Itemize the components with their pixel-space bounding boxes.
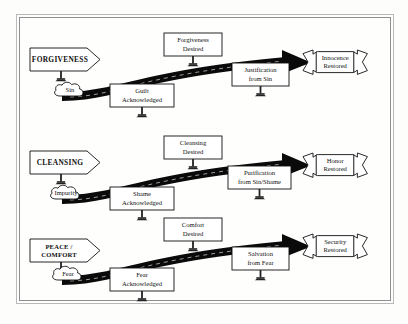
sign-line-2: Acknowledged	[122, 199, 163, 206]
sign-fear-acknowledged[interactable]: Fear Acknowledged	[110, 268, 174, 301]
sign-line-1: Guilt	[135, 87, 149, 94]
sign-line-1: Justification	[244, 66, 277, 73]
sign-cleansing-desired[interactable]: Cleansing Desired	[164, 136, 222, 169]
sign-line-2: Desired	[183, 230, 204, 237]
banner-line-2: Restored	[323, 62, 347, 69]
sign-shame-acknowledged[interactable]: Shame Acknowledged	[110, 187, 174, 220]
cloud-sin: Sin	[55, 82, 83, 96]
sign-line-1: Cleansing	[180, 139, 207, 146]
cloud-label: Sin	[66, 86, 75, 93]
entry-sign-line-2: COMFORT	[41, 251, 77, 258]
row-peace-comfort: PEACE / COMFORT Fear Fear Acknowledged C…	[30, 218, 367, 301]
sign-comfort-desired[interactable]: Comfort Desired	[164, 218, 222, 251]
banner-line-2: Restored	[323, 165, 347, 172]
banner-line-1: Security	[324, 238, 347, 245]
cloud-fear: Fear	[53, 266, 81, 280]
banner-security-restored[interactable]: Security Restored	[303, 234, 367, 258]
cloud-label: Impurity	[54, 189, 78, 196]
row-cleansing: CLEANSING Impurity Shame Acknowledged Cl…	[30, 136, 367, 220]
cloud-label: Fear	[62, 270, 75, 277]
sign-forgiveness-desired[interactable]: Forgiveness Desired	[164, 33, 222, 66]
sign-salvation-from-fear[interactable]: Salvation from Fear	[232, 247, 289, 280]
entry-sign-forgiveness[interactable]: FORGIVENESS	[30, 48, 100, 81]
sign-purification-from-sin-shame[interactable]: Purification from Sin/Shame	[228, 166, 291, 199]
sign-line-1: Purification	[244, 169, 276, 176]
banner-innocence-restored[interactable]: Innocence Restored	[303, 50, 367, 74]
sign-guilt-acknowledged[interactable]: Guilt Acknowledged	[110, 84, 174, 117]
sign-line-1: Shame	[133, 190, 151, 197]
banner-line-1: Honor	[327, 157, 345, 164]
sign-line-2: Desired	[183, 45, 204, 52]
sign-line-2: Acknowledged	[122, 96, 163, 103]
sign-line-1: Forgiveness	[177, 36, 209, 43]
sign-line-1: Comfort	[182, 221, 205, 228]
entry-sign-label: FORGIVENESS	[32, 55, 88, 64]
sign-line-2: from Fear	[247, 259, 274, 266]
sign-justification-from-sin[interactable]: Justification from Sin	[232, 63, 289, 96]
sign-line-2: Acknowledged	[122, 280, 163, 287]
banner-honor-restored[interactable]: Honor Restored	[303, 153, 367, 177]
banner-line-2: Restored	[323, 246, 347, 253]
row-forgiveness: FORGIVENESS Sin Guilt Acknowledged Forgi…	[30, 33, 367, 117]
diagram-svg: FORGIVENESS Sin Guilt Acknowledged Forgi…	[0, 0, 408, 324]
sign-line-1: Fear	[136, 271, 149, 278]
diagram-canvas: FORGIVENESS Sin Guilt Acknowledged Forgi…	[0, 0, 408, 324]
entry-sign-line-1: PEACE /	[45, 243, 72, 250]
sign-line-2: from Sin	[249, 75, 273, 82]
cloud-impurity: Impurity	[51, 185, 79, 199]
sign-line-1: Salvation	[248, 250, 274, 257]
banner-line-1: Innocence	[322, 54, 349, 61]
entry-sign-label: CLEANSING	[37, 158, 84, 167]
sign-line-2: Desired	[183, 148, 204, 155]
entry-sign-cleansing[interactable]: CLEANSING	[30, 151, 100, 184]
sign-line-2: from Sin/Shame	[238, 178, 281, 185]
